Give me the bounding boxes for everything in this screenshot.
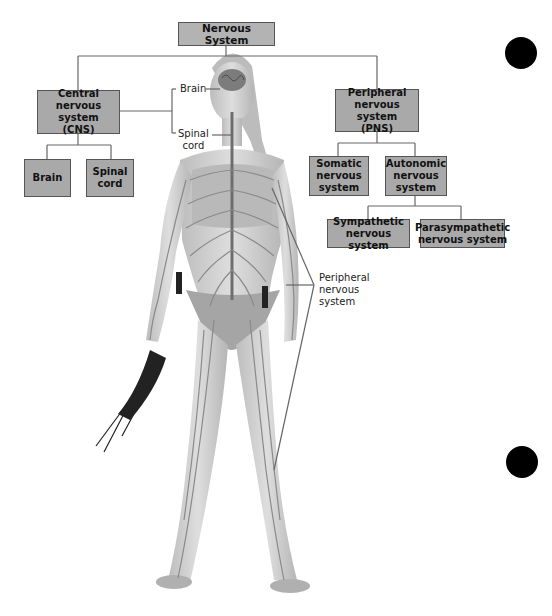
brain-callout-label: Brain: [180, 83, 206, 95]
parasympathetic-nervous-system-box: Parasympathetic nervous system: [420, 219, 505, 248]
autonomic-nervous-system-box: Autonomic nervous system: [385, 156, 447, 196]
sympathetic-nervous-system-box: Sympathetic nervous system: [327, 219, 410, 248]
nervous-system-box: Nervous System: [178, 22, 275, 46]
cns-box: Central nervous system (CNS): [37, 90, 120, 134]
spinal-cord-callout-label: Spinal cord: [178, 128, 209, 152]
pns-box: Peripheral nervous system (PNS): [335, 89, 419, 132]
cns-spinal-cord-box: Spinal cord: [86, 159, 134, 197]
cns-brain-box: Brain: [24, 159, 71, 197]
somatic-nervous-system-box: Somatic nervous system: [309, 156, 369, 196]
page-marker-bottom: [506, 446, 538, 478]
page-marker-top: [505, 37, 537, 69]
peripheral-nervous-system-callout-label: Peripheral nervous system: [319, 272, 370, 308]
